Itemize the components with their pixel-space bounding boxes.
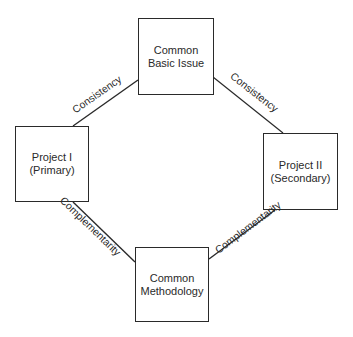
node-project-primary: Project I (Primary) (15, 126, 89, 202)
node-label-line1: Project I (32, 151, 72, 164)
node-label-line2: Methodology (141, 285, 204, 298)
node-label-line2: Basic Issue (148, 57, 204, 70)
node-label-line1: Project II (279, 159, 322, 172)
node-label-line1: Common (150, 272, 195, 285)
node-label-line1: Common (154, 44, 199, 57)
node-label-line2: (Secondary) (271, 172, 331, 185)
node-common-basic-issue: Common Basic Issue (138, 18, 214, 95)
node-label-line2: (Primary) (29, 164, 74, 177)
node-common-methodology: Common Methodology (135, 247, 209, 322)
